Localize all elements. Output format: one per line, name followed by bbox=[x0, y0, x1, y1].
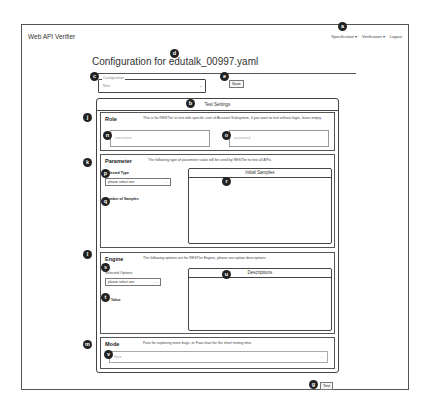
selected-options-select[interactable]: please select one ⌄ bbox=[105, 278, 161, 286]
marker-e: e bbox=[220, 72, 229, 81]
marker-r: r bbox=[222, 177, 231, 186]
nav-specification[interactable]: Specification ▾ bbox=[331, 34, 357, 39]
marker-l: l bbox=[83, 250, 92, 259]
marker-q: q bbox=[101, 197, 110, 206]
marker-t: t bbox=[101, 293, 110, 302]
number-of-samples-label: Number of Samples bbox=[105, 197, 139, 201]
marker-a: a bbox=[338, 22, 347, 31]
marker-j: j bbox=[83, 113, 92, 122]
marker-n: n bbox=[103, 131, 112, 140]
parameter-section: Parameter The following type of paramete… bbox=[100, 154, 335, 248]
configuration-select-label: Configuration bbox=[102, 76, 125, 80]
marker-k: k bbox=[83, 158, 92, 167]
chevron-down-icon: ⌄ bbox=[199, 84, 202, 88]
mode-select-value: Fuzz bbox=[114, 355, 121, 359]
marker-s: s bbox=[101, 263, 110, 272]
configuration-select[interactable]: Configuration New ⌄ bbox=[98, 79, 206, 93]
app-title: Web API Verifier bbox=[28, 33, 75, 40]
parameter-title: Parameter bbox=[105, 158, 132, 164]
descriptions-title: Descriptions bbox=[189, 269, 331, 278]
role-section: Role This is for RESTler to test with sp… bbox=[100, 112, 335, 151]
chevron-down-icon: ⌄ bbox=[155, 280, 158, 284]
marker-p: p bbox=[101, 169, 110, 178]
parameter-description: The following type of parameter value wi… bbox=[148, 158, 330, 163]
top-nav: Specification ▾ Verification ▾ Logout bbox=[331, 34, 402, 39]
marker-u: u bbox=[222, 270, 231, 279]
test-settings-title: Test Settings bbox=[97, 99, 338, 111]
engine-section: Engine The following options are for RES… bbox=[100, 252, 335, 334]
test-button[interactable]: Test bbox=[320, 382, 333, 390]
initial-samples-title: Initial Samples bbox=[189, 169, 331, 178]
role-description: This is for RESTler to test with specifi… bbox=[143, 116, 331, 121]
save-button[interactable]: Save bbox=[229, 80, 244, 88]
nav-logout[interactable]: Logout bbox=[390, 34, 402, 39]
descriptions-box: Descriptions bbox=[188, 268, 332, 331]
engine-description: The following options are for RESTler En… bbox=[143, 256, 313, 261]
marker-d: d bbox=[170, 49, 179, 58]
username-input[interactable]: username bbox=[110, 130, 210, 147]
marker-v: v bbox=[104, 350, 113, 359]
mode-title: Mode bbox=[105, 341, 119, 347]
app-window: Web API Verifier Specification ▾ Verific… bbox=[21, 24, 409, 390]
configuration-select-value: New bbox=[103, 84, 110, 88]
chevron-down-icon: ⌄ bbox=[165, 180, 168, 184]
chevron-down-icon: ⌄ bbox=[321, 355, 324, 359]
engine-title: Engine bbox=[105, 256, 123, 262]
role-title: Role bbox=[105, 116, 117, 122]
marker-c: c bbox=[90, 72, 99, 81]
mode-section: Mode Fuzz for exploring more bugs, or Fu… bbox=[100, 337, 335, 369]
selected-options-label: Selected Options bbox=[105, 271, 132, 275]
value-label: Value bbox=[111, 298, 120, 302]
caret-down-icon: ▾ bbox=[355, 35, 357, 39]
nav-verification-label: Verification bbox=[362, 34, 382, 39]
initial-samples-box: Initial Samples bbox=[188, 168, 332, 244]
caret-down-icon: ▾ bbox=[383, 35, 385, 39]
password-input[interactable]: password bbox=[229, 130, 329, 147]
marker-o: o bbox=[222, 131, 231, 140]
marker-b: b bbox=[186, 99, 195, 108]
nav-verification[interactable]: Verification ▾ bbox=[362, 34, 385, 39]
marker-g: g bbox=[309, 380, 318, 389]
mode-select[interactable]: Fuzz ⌄ bbox=[109, 351, 328, 363]
marker-m: m bbox=[83, 340, 92, 349]
mode-description: Fuzz for exploring more bugs, or Fuzz-le… bbox=[143, 341, 333, 346]
selected-type-select[interactable]: please select one ⌄ bbox=[105, 178, 171, 186]
test-settings-panel: Test Settings Role This is for RESTler t… bbox=[96, 98, 339, 373]
selected-options-value: please select one bbox=[108, 280, 134, 284]
selected-type-value: please select one bbox=[108, 180, 134, 184]
nav-specification-label: Specification bbox=[331, 34, 354, 39]
